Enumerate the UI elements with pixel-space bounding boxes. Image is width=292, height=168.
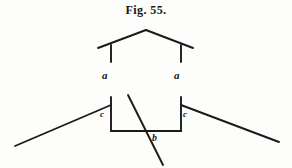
ground-right-line (181, 105, 279, 142)
label-footing-center: b (152, 133, 157, 143)
label-sill-left: c (100, 110, 104, 119)
drawing-line-group (15, 30, 279, 165)
figure-drawing (0, 0, 292, 168)
roof-right-rafter-line (146, 30, 193, 48)
ground-left-line (15, 105, 111, 146)
label-roof-plate-right: a (174, 70, 180, 81)
diagonal-brace-line (128, 95, 163, 165)
label-roof-plate-left: a (102, 70, 108, 81)
roof-left-rafter-line (98, 30, 146, 48)
label-sill-right: c (183, 110, 187, 119)
figure-container: Fig. 55. a a c c b (0, 0, 292, 168)
